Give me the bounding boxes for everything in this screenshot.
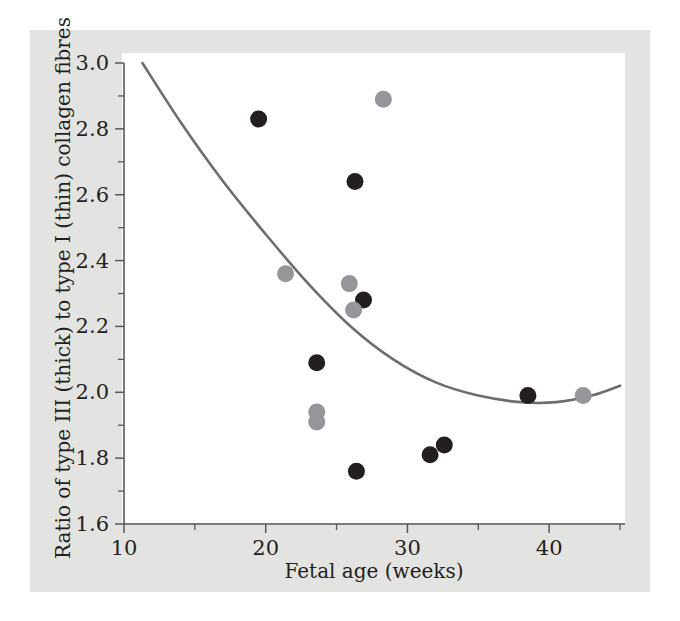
y-tick-label: 2.4 <box>76 249 109 273</box>
data-point <box>341 275 358 292</box>
data-point <box>348 463 365 480</box>
trend-curve <box>142 63 620 403</box>
figure-container: 1.61.82.02.22.42.62.83.010203040 Fetal a… <box>0 0 680 621</box>
y-tick-label: 3.0 <box>76 51 109 75</box>
data-point <box>575 387 592 404</box>
y-tick-label: 1.6 <box>76 512 109 536</box>
data-point <box>375 91 392 108</box>
y-tick-label: 2.0 <box>76 380 109 404</box>
x-tick-label: 10 <box>111 536 138 560</box>
y-tick-label: 1.8 <box>76 446 109 470</box>
data-point <box>436 436 453 453</box>
y-tick-label: 2.6 <box>76 183 109 207</box>
x-axis-title: Fetal age (weeks) <box>284 559 463 583</box>
data-point <box>346 173 363 190</box>
data-point <box>308 413 325 430</box>
data-point <box>277 265 294 282</box>
data-points <box>250 91 592 480</box>
axis-tick-labels: 1.61.82.02.22.42.62.83.010203040 <box>76 51 563 560</box>
x-tick-label: 30 <box>394 536 421 560</box>
axes <box>124 63 625 524</box>
scatter-chart: 1.61.82.02.22.42.62.83.010203040 Fetal a… <box>0 0 680 621</box>
data-point <box>422 446 439 463</box>
y-tick-label: 2.8 <box>76 117 109 141</box>
x-tick-label: 40 <box>536 536 563 560</box>
x-tick-label: 20 <box>252 536 279 560</box>
data-point <box>519 387 536 404</box>
data-point <box>250 110 267 127</box>
fit-curve <box>142 63 620 403</box>
y-tick-label: 2.2 <box>76 314 109 338</box>
data-point <box>345 301 362 318</box>
data-point <box>308 354 325 371</box>
y-axis-title: Ratio of type III (thick) to type I (thi… <box>51 17 75 559</box>
